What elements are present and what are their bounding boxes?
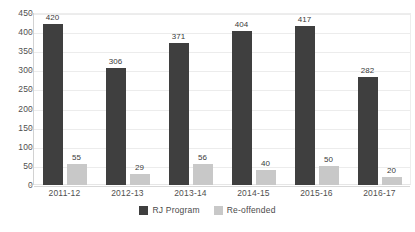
bar-group: 42055	[43, 13, 87, 185]
bar-group: 41750	[295, 13, 339, 185]
bar-value-label: 306	[109, 58, 123, 66]
bar-value-label: 417	[298, 16, 312, 24]
bar-group: 40440	[232, 13, 276, 185]
bar-value-label: 282	[361, 67, 375, 75]
bar-value-label: 55	[72, 154, 81, 162]
bar-value-label: 40	[261, 160, 270, 168]
bar-group: 28220	[358, 13, 402, 185]
bar-value-label: 371	[172, 33, 186, 41]
bar-re-offended[interactable]: 29	[130, 174, 150, 185]
legend-swatch-icon	[139, 206, 148, 215]
bar-rj-program[interactable]: 404	[232, 31, 252, 185]
legend-item-rj-program: RJ Program	[139, 206, 199, 215]
bar-rj-program[interactable]: 282	[358, 77, 378, 185]
bar-re-offended[interactable]: 50	[319, 166, 339, 185]
bars-layer: 420553062937156404404175028220	[33, 13, 411, 185]
bar-re-offended[interactable]: 40	[256, 170, 276, 185]
bar-rj-program[interactable]: 420	[43, 24, 63, 185]
bar-re-offended[interactable]: 20	[382, 177, 402, 185]
legend-swatch-icon	[214, 206, 223, 215]
x-tick-label: 2015-16	[285, 188, 348, 198]
x-tick-label: 2016-17	[348, 188, 411, 198]
legend-item-re-offended: Re-offended	[214, 206, 276, 215]
x-tick-label: 2014-15	[222, 188, 285, 198]
legend-label: Re-offended	[227, 206, 276, 215]
y-tick-mark	[29, 185, 33, 186]
bar-group: 30629	[106, 13, 150, 185]
x-tick-label: 2013-14	[159, 188, 222, 198]
bar-rj-program[interactable]: 371	[169, 43, 189, 185]
x-tick-label: 2011-12	[33, 188, 96, 198]
bar-re-offended[interactable]: 56	[193, 164, 213, 185]
legend-label: RJ Program	[152, 206, 199, 215]
bar-value-label: 420	[46, 14, 60, 22]
y-axis: 450400350300250200150100500	[0, 0, 33, 232]
gridline	[34, 186, 410, 187]
bar-value-label: 20	[387, 167, 396, 175]
bar-rj-program[interactable]: 306	[106, 68, 126, 185]
x-tick-label: 2012-13	[96, 188, 159, 198]
bar-value-label: 56	[198, 154, 207, 162]
bar-value-label: 29	[135, 164, 144, 172]
bar-group: 37156	[169, 13, 213, 185]
bar-value-label: 50	[324, 156, 333, 164]
bar-re-offended[interactable]: 55	[67, 164, 87, 185]
x-axis: 2011-122012-132013-142014-152015-162016-…	[33, 188, 411, 202]
bar-rj-program[interactable]: 417	[295, 26, 315, 185]
chart-legend: RJ Program Re-offended	[0, 206, 415, 215]
bar-value-label: 404	[235, 21, 249, 29]
bar-chart: 450400350300250200150100500 420553062937…	[0, 0, 415, 232]
